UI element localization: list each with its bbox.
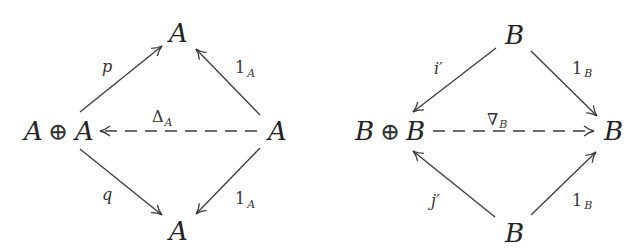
label-delta: ΔA bbox=[152, 107, 173, 129]
oplus-symbol: ⊕ bbox=[380, 118, 400, 146]
codiagonal-diagram: B B ⊕ B B B i′ 1B ∇B j′ 1B bbox=[354, 20, 623, 248]
arrow-q bbox=[80, 149, 162, 215]
label-i-prime: i′ bbox=[434, 59, 443, 78]
arrow-p bbox=[80, 46, 162, 112]
node-top-b: B bbox=[504, 20, 524, 50]
arrow-i-prime bbox=[413, 48, 496, 112]
node-direct-sum-right: A bbox=[73, 116, 94, 146]
node-direct-sum-right: B bbox=[405, 116, 425, 146]
arrow-identity-top bbox=[531, 51, 597, 116]
node-right-a: A bbox=[266, 116, 287, 146]
label-nabla: ∇B bbox=[487, 110, 507, 131]
label-identity-top: 1A bbox=[235, 58, 255, 80]
label-q: q bbox=[102, 185, 112, 204]
node-bottom-a: A bbox=[167, 216, 188, 246]
label-p: p bbox=[102, 57, 112, 76]
node-direct-sum-left: B bbox=[354, 116, 374, 146]
arrow-j-prime bbox=[413, 151, 495, 217]
arrow-identity-top bbox=[196, 49, 260, 115]
label-identity-bottom: 1B bbox=[572, 191, 592, 212]
label-identity-top: 1B bbox=[572, 59, 592, 80]
node-direct-sum-left: A bbox=[22, 116, 43, 146]
node-top-a: A bbox=[167, 18, 188, 48]
node-right-b: B bbox=[603, 116, 623, 146]
label-j-prime: j′ bbox=[428, 191, 440, 210]
oplus-symbol: ⊕ bbox=[48, 118, 68, 146]
node-bottom-b: B bbox=[504, 218, 524, 248]
diagonal-diagram: A A ⊕ A A A p 1A ΔA q 1A bbox=[22, 18, 287, 246]
commutative-diagrams: A A ⊕ A A A p 1A ΔA q 1A B B ⊕ B B B i′ … bbox=[0, 0, 638, 252]
label-identity-bottom: 1A bbox=[235, 189, 255, 211]
